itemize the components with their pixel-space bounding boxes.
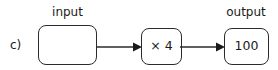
input-box[interactable] xyxy=(38,25,97,65)
function-machine-diagram: input output c) × 4 100 xyxy=(0,0,278,70)
connector-input-to-operation xyxy=(96,41,142,53)
output-label: output xyxy=(216,6,276,18)
connector-operation-to-output xyxy=(180,41,225,53)
output-box: 100 xyxy=(224,28,269,65)
question-item-letter: c) xyxy=(10,39,21,51)
operation-box: × 4 xyxy=(141,28,182,65)
input-label: input xyxy=(38,6,97,18)
